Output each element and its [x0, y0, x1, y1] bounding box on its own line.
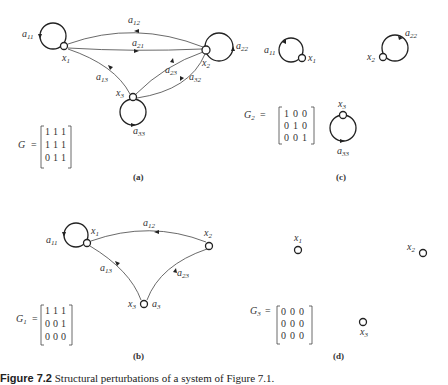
- arrow-icon: [62, 232, 66, 237]
- node-x2: [206, 243, 213, 250]
- matrix-name: G2: [244, 109, 255, 122]
- label-x2: x2: [406, 241, 415, 254]
- svg-text:0: 0: [281, 318, 286, 329]
- label-a11: a11: [264, 44, 275, 57]
- panel-label-b: (b): [133, 351, 144, 361]
- svg-text:0: 0: [293, 108, 298, 119]
- label-x1: x1: [293, 232, 302, 245]
- node-x1: [299, 55, 306, 62]
- label-a21: a21: [132, 37, 144, 50]
- equals-sign: =: [32, 313, 38, 324]
- bracket-right: [68, 126, 71, 168]
- node-x3: [360, 319, 367, 326]
- matrix-name: G3: [250, 305, 261, 318]
- label-x3: x3: [359, 326, 368, 339]
- svg-text:1: 1: [61, 126, 66, 137]
- panel-label-a: (a): [133, 172, 144, 182]
- matrix-G3: G3 = 000 000 000: [250, 305, 312, 344]
- label-a22: a22: [405, 27, 418, 40]
- svg-text:1: 1: [293, 120, 298, 131]
- panel-d-graph: x1 x2 x3: [293, 232, 427, 339]
- panel-b-graph: a11 x1 a12 x2 a13 a23 x3 a3: [46, 217, 213, 311]
- svg-text:0: 0: [302, 108, 307, 119]
- svg-text:0: 0: [281, 330, 286, 341]
- label-a12: a12: [143, 217, 156, 230]
- svg-text:0: 0: [299, 306, 304, 317]
- label-x1: x1: [307, 52, 316, 65]
- label-a23: a23: [165, 64, 178, 77]
- label-x3: x3: [127, 298, 136, 311]
- label-x3: x3: [337, 98, 346, 111]
- svg-text:1: 1: [284, 108, 289, 119]
- svg-text:0: 0: [290, 330, 295, 341]
- label-a33: a33: [133, 125, 146, 138]
- matrix-G: G = 111 111 011: [18, 126, 71, 168]
- svg-text:0: 0: [45, 331, 50, 342]
- equals-sign: =: [265, 305, 271, 316]
- label-a13: a13: [96, 71, 109, 84]
- svg-text:0: 0: [302, 120, 307, 131]
- equals-sign: =: [31, 139, 37, 150]
- label-a11: a11: [22, 28, 33, 41]
- edge-a13: [90, 246, 141, 300]
- label-a13: a13: [100, 262, 113, 275]
- label-a12: a12: [128, 14, 141, 27]
- bracket-left: [279, 107, 282, 144]
- label-x2: x2: [366, 51, 375, 64]
- figure-caption: Figure 7.2 Structural perturbations of a…: [0, 372, 274, 384]
- bracket-right: [69, 305, 72, 345]
- node-x1: [61, 43, 68, 50]
- svg-text:0: 0: [299, 330, 304, 341]
- matrix-G1: G1 = 111 001 000: [16, 305, 72, 345]
- label-x1: x1: [61, 52, 70, 65]
- svg-text:1: 1: [45, 126, 50, 137]
- node-x2: [420, 250, 427, 257]
- label-a32: a32: [189, 71, 202, 84]
- panel-label-c: (c): [336, 172, 346, 182]
- label-x2: x2: [203, 227, 212, 240]
- label-x1: x1: [90, 225, 99, 238]
- arrow-icon: [340, 139, 345, 143]
- svg-text:0: 0: [299, 318, 304, 329]
- bracket-right: [311, 107, 314, 144]
- svg-text:1: 1: [53, 126, 58, 137]
- svg-text:1: 1: [302, 132, 307, 143]
- svg-text:0: 0: [290, 306, 295, 317]
- svg-text:1: 1: [61, 152, 66, 163]
- svg-text:0: 0: [284, 132, 289, 143]
- bracket-left: [41, 126, 44, 168]
- arrow-icon: [38, 34, 42, 39]
- arrow-icon: [115, 261, 120, 266]
- node-x2: [202, 46, 210, 54]
- svg-text:0: 0: [53, 318, 58, 329]
- svg-text:0: 0: [53, 331, 58, 342]
- label-a3: a3: [152, 298, 161, 311]
- node-x1: [84, 240, 91, 247]
- svg-text:0: 0: [290, 318, 295, 329]
- bracket-left: [277, 306, 280, 344]
- caption-prefix: Figure 7.2: [0, 372, 52, 384]
- node-x3: [340, 112, 347, 119]
- bracket-right: [309, 306, 312, 344]
- svg-text:0: 0: [284, 120, 289, 131]
- caption-text: Structural perturbations of a system of …: [52, 372, 274, 384]
- matrix-name: G1: [16, 313, 27, 326]
- arrow-icon: [231, 46, 235, 51]
- svg-text:1: 1: [61, 305, 66, 316]
- edge-a12: [91, 231, 206, 242]
- panel-a-graph: a11 x1 a12 a21 a22 x2 a13 a23 a32 x3 a33: [22, 14, 249, 138]
- svg-text:0: 0: [61, 331, 66, 342]
- svg-text:1: 1: [53, 139, 58, 150]
- node-x3: [130, 94, 137, 101]
- label-a22: a22: [236, 40, 249, 53]
- loop-a33: [120, 99, 146, 125]
- label-x2: x2: [201, 57, 210, 70]
- svg-text:1: 1: [61, 139, 66, 150]
- svg-text:1: 1: [61, 318, 66, 329]
- label-a11: a11: [46, 234, 57, 247]
- node-x3: [141, 301, 148, 308]
- matrix-name: G: [18, 139, 25, 150]
- matrix-G2: G2 = 100 010 001: [244, 107, 314, 144]
- label-x3: x3: [115, 87, 124, 100]
- svg-text:0: 0: [45, 318, 50, 329]
